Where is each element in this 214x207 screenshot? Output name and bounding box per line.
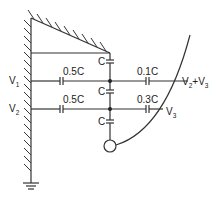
label-v3: V3: [166, 106, 177, 119]
cap-center-3-label: C: [98, 116, 105, 127]
capacitor-network-diagram: V1 V2 0.5C 0.5C 0.1C 0.3C C C C V2+V3 V3: [0, 0, 214, 207]
cap-right-top-label: 0.1C: [137, 66, 158, 77]
slanted-wall: [31, 18, 110, 53]
ground-icon: [23, 183, 39, 189]
cap-right-bottom-label: 0.3C: [137, 94, 158, 105]
center-column: [106, 53, 114, 140]
label-v1: V1: [9, 75, 20, 88]
cap-left-bottom-label: 0.5C: [63, 94, 84, 105]
cap-left-top-label: 0.5C: [63, 66, 84, 77]
label-v2-plus-v3: V2+V3: [182, 76, 209, 89]
junction-dot-2: [108, 107, 112, 111]
v2-branch: [31, 105, 163, 113]
cap-center-1-label: C: [98, 56, 105, 67]
slanted-wall-hatching: [28, 10, 106, 51]
label-v2: V2: [9, 103, 20, 116]
left-wall-hatching: [24, 20, 31, 171]
junction-dot-1: [108, 79, 112, 83]
trajectory-curve: [116, 35, 190, 145]
cap-center-2-label: C: [98, 86, 105, 97]
sphere-electrode: [104, 140, 116, 152]
